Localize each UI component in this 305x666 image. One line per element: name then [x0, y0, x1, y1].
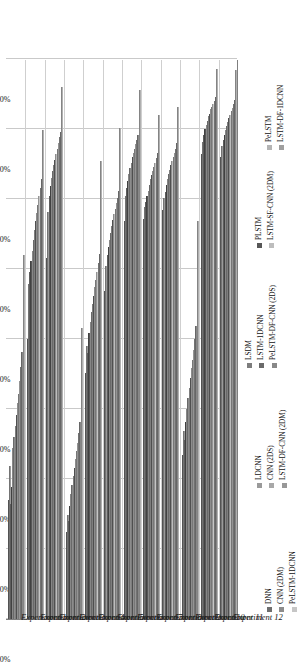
legend-swatch-icon	[259, 363, 264, 368]
legend-item[interactable]: CNN (2DM)	[278, 551, 285, 612]
legend-column: PeLSTMLSTM-DF-1DCNN	[266, 85, 285, 150]
bar-group	[83, 60, 102, 619]
bar	[235, 70, 237, 619]
legend-swatch-icon	[247, 363, 252, 368]
value-axis: 60. 00%65. 00%70. 00%75. 00%80. 00%85. 0…	[6, 622, 238, 666]
bar-group	[199, 60, 218, 619]
legend-swatch-icon	[279, 607, 284, 612]
legend-swatch-icon	[269, 483, 274, 488]
legend-item[interactable]: PLSTM	[256, 171, 263, 248]
legend-swatch-icon	[257, 483, 262, 488]
plot-area-wrapper	[6, 60, 238, 620]
bar-series-container	[6, 60, 237, 619]
legend-label: CNN (2DS)	[268, 445, 275, 480]
legend-label: LSTM-DF-CNN (2DM)	[280, 410, 287, 480]
legend-swatch-icon	[267, 145, 272, 150]
legend-swatch-icon	[279, 145, 284, 150]
legend-swatch-icon	[269, 243, 274, 248]
bar-group	[6, 60, 25, 619]
legend-item[interactable]: LSTM-DF-CNN (2DM)	[280, 410, 287, 488]
bar-group	[161, 60, 180, 619]
legend-swatch-icon	[267, 607, 272, 612]
bar-group	[45, 60, 64, 619]
legend-item[interactable]: LSTM-DF-1DCNN	[278, 85, 285, 150]
legend-item[interactable]: LSDM	[246, 285, 253, 368]
legend-column: DNNCNN (2DM)PeLSTM-1DCNN	[266, 551, 298, 612]
legend-label: CNN (2DM)	[278, 567, 285, 604]
gridline	[6, 58, 237, 59]
legend-label: PeLSTM	[266, 116, 273, 142]
legend-label: LSTM-1DCNN	[258, 314, 265, 360]
bar-group	[141, 60, 160, 619]
bar-group	[122, 60, 141, 619]
legend-label: LSTM-DF-1DCNN	[278, 85, 285, 142]
legend-column: LDCNNCNN (2DS)LSTM-DF-CNN (2DM)	[256, 410, 288, 488]
rotated-figure-container: 60. 00%65. 00%70. 00%75. 00%80. 00%85. 0…	[0, 0, 305, 666]
legend-swatch-icon	[292, 607, 297, 612]
legend-label: PeLSTM-1DCNN	[290, 551, 297, 604]
legend-item[interactable]: LSTM-1DCNN	[258, 285, 265, 368]
legend-label: DNN	[266, 588, 273, 604]
bar-group	[25, 60, 44, 619]
legend-item[interactable]: LDCNN	[256, 410, 263, 488]
legend-item[interactable]: PeLSTM-1DCNN	[290, 551, 297, 612]
bar-group	[219, 60, 238, 619]
legend-label: PLSTM	[256, 217, 263, 240]
legend-column: PLSTMLSTM-SF-CNN (2DM)	[256, 171, 275, 248]
value-axis-tick-label: 60. 00%	[0, 655, 11, 664]
bar-chart-figure: 60. 00%65. 00%70. 00%75. 00%80. 00%85. 0…	[0, 0, 305, 666]
legend-label: LSTM-SF-CNN (2DM)	[268, 171, 275, 240]
legend-label: LSDM	[246, 340, 253, 360]
legend-label: PeLSTM-DF-CNN (2DS)	[270, 285, 277, 360]
legend-swatch-icon	[282, 483, 287, 488]
legend-column: LSDMLSTM-1DCNNPeLSTM-DF-CNN (2DS)	[246, 285, 278, 368]
legend-swatch-icon	[272, 363, 277, 368]
bar-group	[180, 60, 199, 619]
legend-item[interactable]: DNN	[266, 551, 273, 612]
legend-item[interactable]: PeLSTM-DF-CNN (2DS)	[270, 285, 277, 368]
chart-legend: DNNCNN (2DM)PeLSTM-1DCNNLDCNNCNN (2DS)LS…	[244, 60, 302, 620]
legend-item[interactable]: LSTM-SF-CNN (2DM)	[268, 171, 275, 248]
legend-label: LDCNN	[256, 455, 263, 480]
legend-item[interactable]: CNN (2DS)	[268, 410, 275, 488]
bar-group	[103, 60, 122, 619]
legend-swatch-icon	[257, 243, 262, 248]
plot-area	[6, 60, 238, 620]
legend-item[interactable]: PeLSTM	[266, 85, 273, 150]
bar-group	[64, 60, 83, 619]
